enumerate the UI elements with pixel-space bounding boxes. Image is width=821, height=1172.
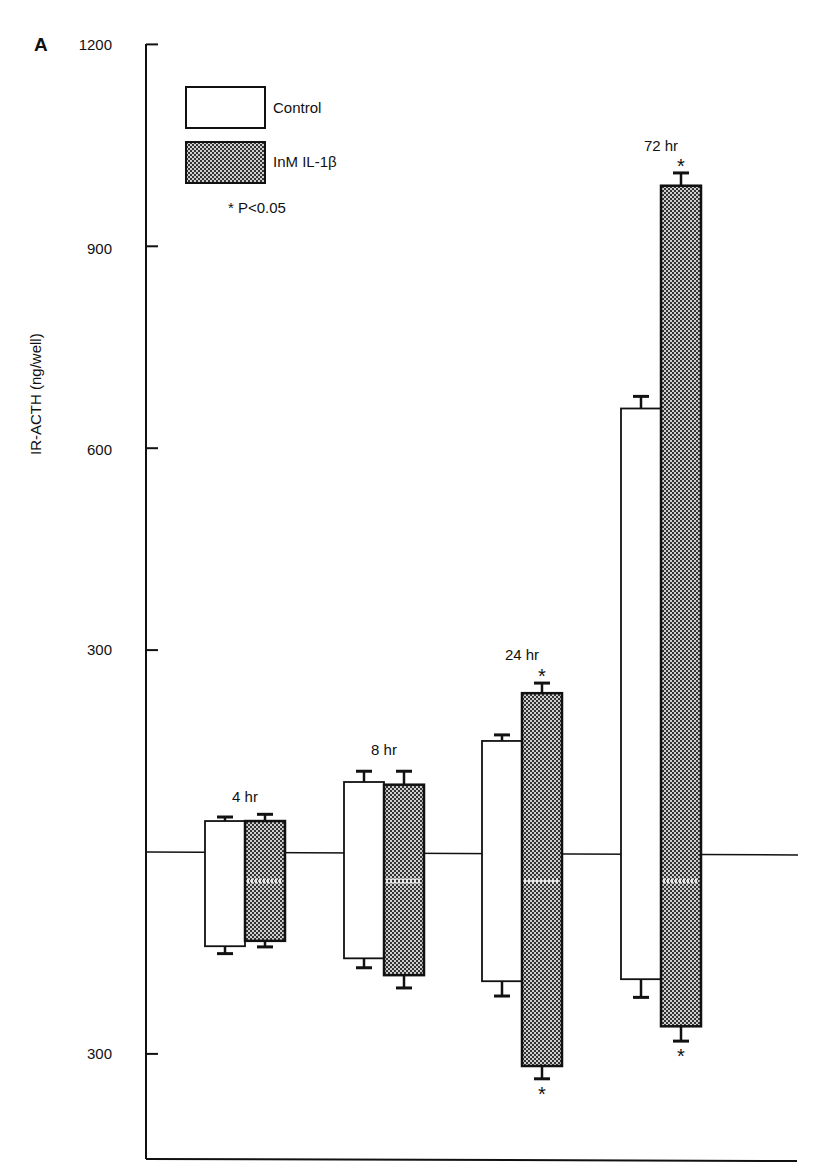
group-label-72hr: 72 hr	[621, 137, 701, 154]
legend-significance-note: * P<0.05	[228, 199, 286, 216]
ytick-300-lower: 300	[52, 1045, 112, 1062]
ytick-600: 600	[52, 441, 112, 458]
bar-il1b	[661, 186, 701, 1027]
legend	[186, 87, 265, 183]
panel-label: A	[34, 34, 48, 56]
bar-chart	[0, 0, 821, 1172]
legend-swatch-control	[186, 87, 265, 128]
bars	[205, 173, 701, 1079]
ytick-1200: 1200	[52, 36, 112, 53]
legend-label-control: Control	[273, 99, 321, 116]
legend-label-il1b: InM IL-1β	[273, 153, 337, 170]
group-label-4hr: 4 hr	[205, 788, 285, 805]
bar-control	[621, 408, 661, 979]
bar-control	[205, 821, 245, 946]
group-label-24hr: 24 hr	[482, 646, 562, 663]
ytick-300-upper: 300	[52, 641, 112, 658]
significance-star: *	[532, 1084, 552, 1104]
bar-control	[344, 782, 384, 958]
legend-swatch-il1b	[186, 142, 265, 183]
y-axis-label: IR-ACTH (ng/well)	[27, 333, 44, 455]
group-label-8hr: 8 hr	[344, 741, 424, 758]
significance-star: *	[671, 1046, 691, 1066]
bar-control	[482, 741, 522, 981]
ytick-900: 900	[52, 240, 112, 257]
significance-star: *	[671, 156, 691, 176]
significance-star: *	[532, 666, 552, 686]
x-axis-line	[146, 1159, 797, 1161]
